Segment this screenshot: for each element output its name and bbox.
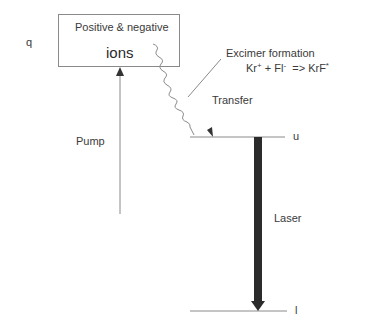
reaction-arrow: =>: [292, 62, 305, 74]
reaction-kr: Kr: [246, 62, 257, 74]
diagram-canvas: [0, 0, 374, 333]
laser-arrow: [251, 137, 265, 311]
laser-label: Laser: [274, 213, 302, 224]
reaction-kr-charge: +: [257, 61, 262, 70]
pump-arrow: [116, 67, 124, 214]
transfer-label: Transfer: [212, 95, 253, 106]
box-title-line1: Positive & negative: [75, 22, 169, 33]
reaction-product-mark: *: [326, 61, 329, 70]
level-l-label: l: [295, 305, 297, 316]
pump-label: Pump: [76, 136, 105, 147]
level-u-label: u: [293, 131, 299, 142]
excimer-formation-label: Excimer formation: [226, 48, 315, 59]
reaction-fl-charge: -: [283, 61, 286, 70]
box-title-line2: ions: [106, 45, 134, 60]
state-q-label: q: [26, 37, 32, 48]
reaction-equation: Kr+ + Fl- => KrF*: [246, 62, 329, 74]
reaction-plus: +: [265, 62, 271, 74]
excimer-leader-line: [188, 59, 221, 97]
reaction-product: KrF: [308, 62, 326, 74]
